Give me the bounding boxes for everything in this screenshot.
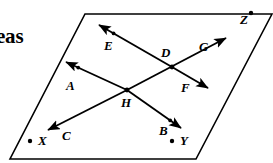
ray-B: B: [127, 90, 181, 138]
figure-canvas: ABCGEF DH XYZ: [0, 0, 273, 163]
ray-C-line: [48, 90, 127, 130]
geometry-figure: eas ABCGEF DH XYZ: [0, 0, 273, 163]
ray-G-line: [127, 38, 226, 90]
ray-G: G: [127, 38, 226, 90]
ray-F-point-marker: [199, 82, 203, 86]
intersection-dot-D: [170, 65, 175, 70]
point-label-F: F: [180, 80, 190, 95]
point-label-G: G: [199, 39, 209, 54]
rays-group: ABCGEF: [48, 25, 226, 143]
point-label-B: B: [158, 123, 168, 138]
point-label-Y: Y: [180, 133, 189, 148]
point-label-H: H: [120, 95, 132, 110]
point-label-E: E: [103, 38, 113, 53]
ray-A: A: [65, 62, 127, 93]
plane-parallelogram: [10, 14, 272, 159]
point-label-D: D: [160, 45, 171, 60]
point-label-Z: Z: [239, 12, 248, 27]
point-dot-X: [28, 139, 32, 143]
point-dot-Z: [249, 11, 253, 15]
ray-A-line: [66, 62, 127, 90]
ray-F: F: [172, 67, 208, 95]
ray-B-line: [127, 90, 181, 128]
ray-E-point-marker: [112, 32, 116, 36]
intersection-dot-H: [125, 88, 130, 93]
point-label-X: X: [37, 133, 47, 148]
point-label-C: C: [62, 128, 71, 143]
ray-A-point-marker: [76, 66, 80, 70]
point-label-A: A: [65, 78, 75, 93]
point-dot-Y: [170, 139, 174, 143]
ray-C: C: [48, 90, 127, 143]
intersection-nodes-group: DH: [120, 45, 174, 110]
ray-F-line: [172, 67, 208, 88]
ray-B-point-marker: [168, 119, 172, 123]
